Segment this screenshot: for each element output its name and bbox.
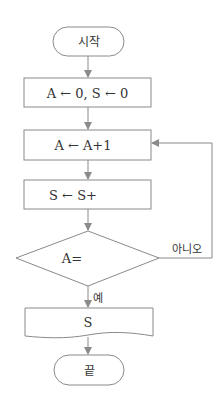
output-label: S — [84, 315, 93, 330]
decision-diamond: A= — [16, 231, 159, 286]
flowchart: 시작 A ← 0, S ← 0 A ← A+1 S ← S+ A= 아니오 예 … — [0, 0, 222, 399]
end-label: 끝 — [84, 364, 95, 378]
no-label: 아니오 — [172, 243, 202, 256]
increment-label: A ← A+1 — [53, 138, 111, 153]
no-loop-arrow — [152, 143, 212, 258]
accumulate-label: S ← S+ — [49, 188, 97, 203]
yes-label: 예 — [93, 292, 103, 305]
init-process-box: A ← 0, S ← 0 — [24, 78, 151, 107]
output-document: S — [25, 308, 153, 338]
start-terminator: 시작 — [53, 27, 124, 56]
increment-process-box: A ← A+1 — [24, 130, 151, 160]
init-label: A ← 0, S ← 0 — [46, 86, 128, 101]
accumulate-process-box: S ← S+ — [24, 180, 151, 209]
end-terminator: 끝 — [54, 355, 124, 385]
decision-label: A= — [61, 251, 82, 266]
start-label: 시작 — [78, 35, 100, 49]
